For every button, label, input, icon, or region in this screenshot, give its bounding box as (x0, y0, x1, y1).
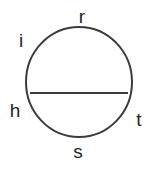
label-lower-right: t (129, 110, 149, 129)
label-bottom: s (68, 142, 88, 161)
label-lower-left: h (5, 101, 25, 120)
diagram-canvas: r i h t s (0, 0, 151, 169)
label-upper-left: i (11, 31, 31, 50)
label-top: r (72, 7, 92, 26)
circle-shape (26, 27, 132, 137)
